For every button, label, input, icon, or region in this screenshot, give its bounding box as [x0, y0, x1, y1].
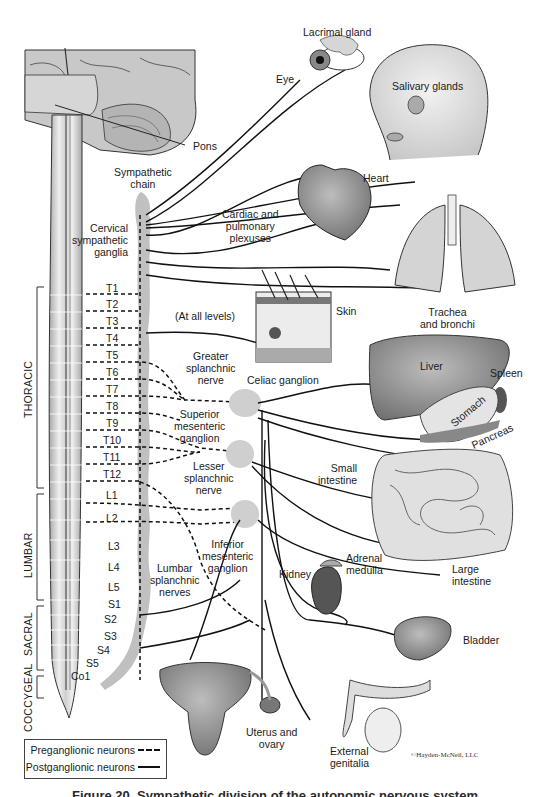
region-label-lumbar: LUMBAR	[22, 532, 34, 578]
segment-label: S2	[104, 613, 117, 625]
segment-label: T11	[103, 451, 120, 463]
segment-label: L4	[108, 561, 120, 573]
segment-label: T8	[106, 400, 118, 412]
segment-label: T1	[106, 282, 118, 294]
label-spleen: Spleen	[490, 367, 523, 379]
segment-label: T7	[106, 383, 118, 395]
segment-label: L3	[108, 540, 120, 552]
segment-label: T4	[106, 332, 118, 344]
prevertebral-ganglia	[226, 389, 261, 528]
label-uterus-ovary: Uterus and ovary	[246, 726, 297, 750]
label-eye: Eye	[276, 73, 294, 85]
region-brackets	[37, 287, 44, 698]
label-adrenal-medulla: Adrenal medulla	[346, 552, 383, 576]
celiac-ganglion	[229, 389, 261, 417]
segment-label: T10	[103, 434, 121, 446]
legend-preganglionic: Preganglionic neurons	[31, 744, 161, 756]
brainstem-illustration	[25, 48, 196, 155]
label-salivary-glands: Salivary glands	[392, 80, 463, 92]
label-inferior-mesenteric: Inferior mesenteric ganglion	[202, 538, 253, 574]
kidney-illustration	[312, 567, 342, 614]
label-greater-splanchnic: Greater splanchnic nerve	[186, 350, 236, 386]
copyright-notice: ©Hayden-McNeil, LLC	[411, 751, 479, 759]
label-at-all-levels: (At all levels)	[175, 310, 235, 322]
label-skin: Skin	[336, 305, 356, 317]
label-small-intestine: Small intestine	[318, 462, 357, 486]
label-large-intestine: Large intestine	[452, 563, 491, 587]
segment-label: S4	[97, 644, 110, 656]
segment-label: T6	[106, 366, 118, 378]
small-intestine-illustration	[372, 449, 513, 560]
segment-label: T5	[106, 349, 118, 361]
bladder-illustration	[394, 617, 451, 660]
label-kidney: Kidney	[279, 568, 311, 580]
label-lumbar-splanchnic: Lumbar splanchnic nerves	[150, 562, 200, 598]
salivary-gland	[408, 96, 424, 114]
legend-postganglionic: Postganglionic neurons	[26, 761, 160, 773]
solid-line-icon	[138, 766, 160, 768]
uterus-illustration	[160, 663, 251, 756]
segment-label: S5	[86, 657, 99, 669]
label-lesser-splanchnic: Lesser splanchnic nerve	[184, 460, 234, 496]
salivary-gland	[387, 133, 403, 141]
label-trachea: Trachea and bronchi	[420, 306, 475, 330]
region-label-thoracic: THORACIC	[22, 361, 34, 418]
dashed-line-icon	[138, 749, 160, 751]
label-bladder: Bladder	[463, 634, 499, 646]
inferior-mesenteric-ganglion	[231, 500, 259, 528]
label-celiac-ganglion: Celiac ganglion	[247, 374, 319, 386]
label-cardiac-plexuses: Cardiac and pulmonary plexuses	[222, 208, 279, 244]
spinal-cord	[49, 115, 82, 718]
segment-label: T3	[106, 315, 118, 327]
sympathetic-diagram: Lacrimal gland Eye Salivary glands Pons …	[0, 0, 542, 797]
heart-illustration	[298, 165, 371, 240]
legend: Preganglionic neurons Postganglionic neu…	[24, 739, 167, 779]
label-lacrimal-gland: Lacrimal gland	[303, 26, 371, 38]
label-pons: Pons	[193, 140, 217, 152]
segment-label: L1	[106, 489, 118, 501]
skin-illustration	[256, 270, 331, 362]
head-outline	[370, 45, 488, 160]
eye-illustration	[310, 35, 364, 70]
lungs-illustration	[395, 195, 515, 292]
segment-label: S1	[108, 598, 121, 610]
label-sympathetic-chain: Sympathetic chain	[114, 166, 172, 190]
label-superior-mesenteric: Superior mesenteric ganglion	[174, 408, 225, 444]
adrenal-illustration	[320, 560, 342, 566]
region-label-coccygeal: COCCYGEAL	[22, 663, 34, 732]
segment-label: T9	[106, 417, 118, 429]
label-liver: Liver	[420, 360, 443, 372]
label-heart: Heart	[363, 172, 389, 184]
region-label-sacral: SACRAL	[22, 612, 34, 656]
segment-label: L2	[106, 512, 118, 524]
label-external-genitalia: External genitalia	[330, 745, 369, 769]
segment-label: T12	[103, 468, 121, 480]
segment-label: S3	[104, 630, 117, 642]
segment-label: Co1	[71, 670, 90, 682]
figure-caption: Figure 20. Sympathetic division of the a…	[72, 786, 478, 797]
label-cervical-ganglia: Cervical sympathetic ganglia	[72, 222, 128, 258]
segment-label: T2	[106, 298, 118, 310]
segment-label: L5	[108, 581, 120, 593]
